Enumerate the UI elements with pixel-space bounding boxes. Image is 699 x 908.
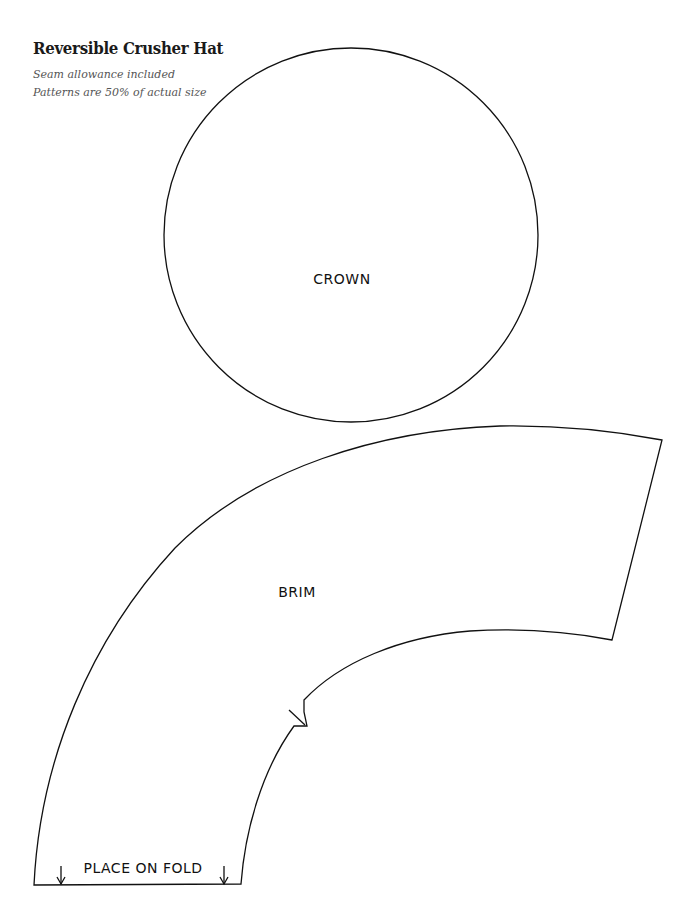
place-on-fold-label: PLACE ON FOLD [83, 860, 202, 876]
fold-arrow-right-icon [220, 866, 228, 884]
notch-mark [289, 710, 305, 725]
fold-arrow-left-icon [57, 866, 65, 884]
crown-piece: CROWN [164, 48, 538, 422]
brim-piece: BRIM PLACE ON FOLD [34, 426, 662, 885]
crown-outline [164, 48, 538, 422]
crown-label: CROWN [313, 271, 370, 287]
pattern-drawing: CROWN BRIM PLACE ON FOLD [0, 0, 699, 908]
brim-outline [34, 426, 662, 885]
brim-label: BRIM [278, 584, 316, 600]
pattern-sheet: Reversible Crusher Hat Seam allowance in… [0, 0, 699, 908]
